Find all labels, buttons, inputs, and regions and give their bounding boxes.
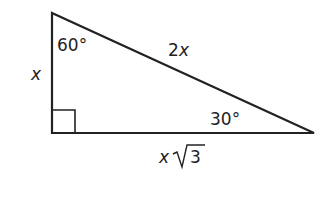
base-var: x <box>158 147 170 167</box>
base-label: x 3 <box>158 145 205 167</box>
right-angle-marker <box>52 110 75 133</box>
hypotenuse-label: 2 x <box>168 40 190 60</box>
side-x-label: x <box>30 64 42 84</box>
angle-30-label: 30° <box>210 109 240 129</box>
base-radicand: 3 <box>190 147 201 167</box>
angle-60-label: 60° <box>57 35 87 55</box>
triangle <box>52 13 314 133</box>
hypotenuse-coef: 2 <box>168 40 179 60</box>
hypotenuse-var: x <box>178 40 190 60</box>
triangle-diagram: 60° 30° x 2 x x 3 <box>0 0 326 200</box>
